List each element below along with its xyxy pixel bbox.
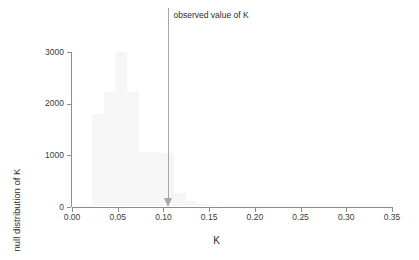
- histogram-bar: [174, 193, 186, 206]
- x-tick-label: 0.30: [338, 213, 355, 222]
- y-axis-title: null distribution of K: [2, 50, 14, 210]
- histogram-bar: [127, 92, 139, 206]
- y-tick: [67, 207, 71, 208]
- plot-area: [72, 52, 392, 206]
- y-tick-label: 1000: [45, 151, 64, 160]
- x-tick-label: 0.10: [155, 213, 172, 222]
- observed-value-annotation-label: observed value of K: [174, 10, 249, 20]
- x-tick-label: 0.05: [109, 213, 126, 222]
- histogram-bar: [104, 92, 116, 206]
- y-tick-label: 2000: [45, 99, 64, 108]
- histogram-bar: [197, 204, 209, 206]
- y-tick: [67, 155, 71, 156]
- x-tick-label: 0.00: [64, 213, 81, 222]
- x-axis-line: [72, 207, 393, 208]
- histogram-bar: [92, 114, 104, 206]
- y-tick: [67, 104, 71, 105]
- histogram-bar: [150, 152, 162, 206]
- x-tick-label: 0.35: [384, 213, 401, 222]
- x-tick-label: 0.20: [247, 213, 264, 222]
- y-tick-label: 3000: [45, 48, 64, 57]
- histogram-bar: [209, 205, 221, 206]
- x-tick-label: 0.15: [201, 213, 218, 222]
- histogram-bar: [115, 52, 127, 206]
- histogram-bar: [186, 201, 198, 206]
- y-tick-label: 0: [59, 203, 64, 212]
- histogram-bar: [139, 152, 151, 207]
- chart-figure: null distribution of K 0100020003000 0.0…: [0, 0, 419, 260]
- y-tick: [67, 52, 71, 53]
- observed-value-arrow-head: [164, 198, 172, 207]
- observed-value-arrow-line: [168, 8, 169, 198]
- x-tick-label: 0.25: [292, 213, 309, 222]
- x-axis-title-text: K: [213, 235, 220, 246]
- x-axis-title: K: [0, 235, 419, 246]
